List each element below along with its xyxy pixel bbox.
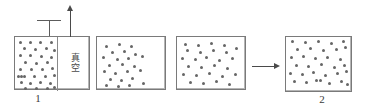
gas-particle: [320, 63, 323, 66]
gas-particle: [210, 42, 213, 45]
gas-particle: [322, 49, 325, 52]
gas-particle: [44, 75, 47, 78]
gas-particle: [50, 41, 53, 44]
valve-stem: [49, 20, 50, 36]
gas-particle: [126, 70, 129, 73]
gas-particle: [19, 68, 22, 71]
gas-particle: [202, 82, 205, 85]
gas-particle: [346, 83, 349, 86]
gas-particle: [139, 69, 142, 72]
gas-particle: [108, 64, 111, 67]
gas-particle: [221, 75, 224, 78]
gas-particle: [131, 77, 134, 80]
vacuum-label-char-1: 真: [67, 53, 83, 63]
gas-particle: [228, 83, 231, 86]
gas-particle: [339, 58, 342, 61]
gas-particle: [53, 86, 56, 89]
gas-particle: [295, 64, 298, 67]
gas-particle: [312, 71, 315, 74]
gas-particle: [315, 79, 318, 82]
gas-particle: [29, 54, 32, 57]
gas-particle: [187, 65, 190, 68]
transition-arrow-head: [274, 63, 280, 69]
gas-particle: [343, 64, 346, 67]
vessel-1-partition: [57, 37, 58, 91]
gas-particle: [330, 42, 333, 45]
gas-particle: [23, 75, 26, 78]
vacuum-label-char-2: 空: [67, 63, 83, 73]
evacuation-arrow-head: [67, 5, 73, 11]
gas-particle: [121, 63, 124, 66]
gas-particle: [314, 57, 317, 60]
gas-particle: [324, 74, 327, 77]
caption-state-2: 2: [315, 93, 329, 105]
gas-particle: [103, 70, 106, 73]
gas-particle: [235, 47, 238, 50]
gas-particle: [30, 68, 33, 71]
evacuation-arrow-shaft: [70, 11, 71, 37]
gas-particle: [342, 40, 345, 43]
gas-particle: [118, 43, 121, 46]
gas-particle: [24, 87, 27, 90]
gas-particle: [53, 49, 56, 52]
vacuum-label: 真 空: [67, 53, 83, 73]
gas-particle: [302, 55, 305, 58]
gas-particle: [184, 43, 187, 46]
gas-particle: [328, 82, 331, 85]
gas-particle: [53, 74, 56, 77]
gas-particle: [29, 41, 32, 44]
gas-particle: [142, 82, 145, 85]
gas-particle: [46, 61, 49, 64]
gas-particle: [33, 75, 36, 78]
gas-particle: [319, 79, 322, 82]
gas-particle: [199, 51, 202, 54]
gas-particle: [40, 55, 43, 58]
gas-particle: [114, 72, 117, 75]
gas-particle: [116, 58, 119, 61]
gas-particle: [117, 85, 120, 88]
gas-particle: [307, 65, 310, 68]
gas-particle: [290, 56, 293, 59]
gas-particle: [197, 44, 200, 47]
gas-particle: [46, 87, 49, 90]
gas-particle: [19, 41, 22, 44]
gas-particle: [345, 70, 348, 73]
gas-particle: [344, 46, 347, 49]
gas-particle: [205, 56, 208, 59]
gas-particle: [189, 81, 192, 84]
gas-particle: [181, 57, 184, 60]
vessel-2-container: [96, 36, 166, 90]
gas-particle: [340, 80, 343, 83]
gas-particle: [141, 55, 144, 58]
gas-particle: [49, 82, 52, 85]
gas-particle: [39, 81, 42, 84]
gas-particle: [296, 48, 299, 51]
gas-particle: [200, 66, 203, 69]
gas-particle: [23, 47, 26, 50]
gas-particle: [128, 84, 131, 87]
vessel-1-container: 真 空: [14, 36, 90, 90]
gas-particle: [226, 67, 229, 70]
transition-arrow-shaft: [252, 66, 274, 67]
gas-particle: [225, 51, 228, 54]
gas-particle: [50, 56, 53, 59]
gas-particle: [186, 49, 189, 52]
gas-particle: [127, 57, 130, 60]
gas-particle: [24, 61, 27, 64]
gas-particle: [195, 74, 198, 77]
gas-particle: [326, 56, 329, 59]
gas-particle: [19, 54, 22, 57]
gas-particle: [304, 41, 307, 44]
gas-particle: [194, 58, 197, 61]
gas-particle: [335, 48, 338, 51]
gas-particle: [51, 67, 54, 70]
gas-particle: [102, 56, 105, 59]
gas-particle: [123, 50, 126, 53]
gas-particle: [305, 81, 308, 84]
gas-particle: [105, 45, 108, 48]
vessel-3-container: [176, 36, 246, 90]
gas-particle: [231, 57, 234, 60]
gas-diffusion-diagram: 真 空 1: [0, 0, 366, 110]
gas-particle: [39, 41, 42, 44]
gas-particle: [35, 62, 38, 65]
